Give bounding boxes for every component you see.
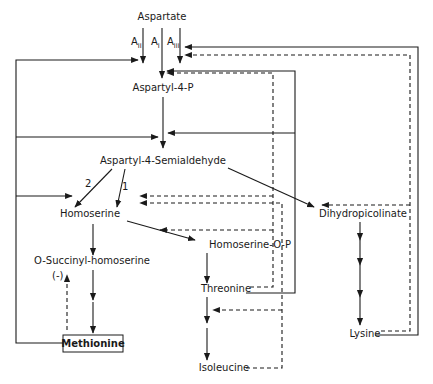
pathway-diagram: Aspartate AII AI AIII Aspartyl-4-P Aspar…: [0, 0, 433, 384]
route-label-2: 2: [85, 178, 91, 189]
negative-regulation-label: (-): [52, 270, 64, 281]
node-isoleucine: Isoleucine: [199, 362, 249, 373]
node-aspartyl-4-p: Aspartyl-4-P: [133, 82, 194, 93]
feedback-threonine-to-a-i-solid: [167, 71, 295, 293]
node-threonine: Threonine: [200, 283, 251, 294]
node-aspartyl-4-semialdehyde: Aspartyl-4-Semialdehyde: [100, 155, 226, 166]
feedback-threonine-to-a-i-dashed: [167, 73, 273, 287]
node-lysine: Lysine: [349, 328, 380, 339]
route-label-1: 1: [122, 181, 128, 192]
enzyme-label-a-ii: AII: [131, 36, 142, 50]
node-homoserine: Homoserine: [60, 208, 120, 219]
node-aspartate: Aspartate: [138, 11, 187, 22]
node-dihydropicolinate: Dihydropicolinate: [319, 208, 407, 219]
node-methionine: Methionine: [61, 338, 125, 349]
node-o-succinyl-homoserine: O-Succinyl-homoserine: [34, 255, 150, 266]
feedback-methionine-to-a-ii: [16, 60, 138, 343]
enzyme-label-a-i: AI: [151, 36, 160, 50]
node-homoserine-o-p: Homoserine-O-P: [209, 239, 291, 250]
enzyme-label-a-iii: AIII: [167, 36, 180, 50]
arrow-semialdehyde-to-dihydropicolinate: [228, 168, 314, 207]
arrow-route-2: [75, 169, 112, 207]
